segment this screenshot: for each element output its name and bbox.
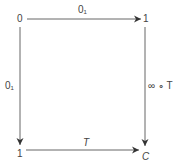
label-top-arrow: 0₁ — [78, 5, 87, 15]
label-left-arrow: 0₁ — [5, 81, 14, 91]
node-bottom-left: 1 — [17, 149, 23, 159]
label-bottom-arrow: T — [83, 138, 89, 148]
label-right-arrow: ∞ ∘ T — [148, 81, 173, 91]
node-top-left: 0 — [17, 14, 23, 24]
node-top-right: 1 — [143, 14, 149, 24]
node-bottom-right: C — [142, 152, 149, 162]
